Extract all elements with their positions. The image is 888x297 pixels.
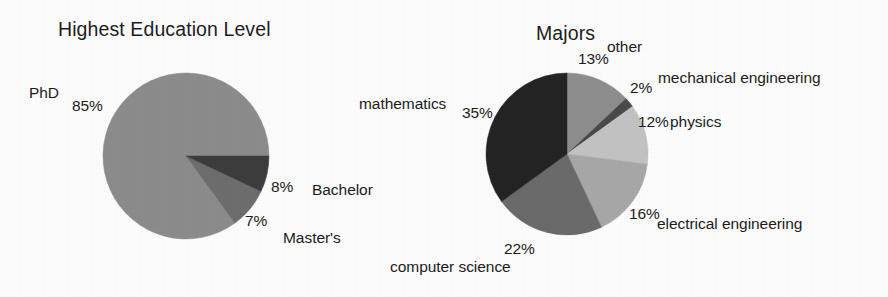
slice-percent-electrical-engineering: 16% (629, 205, 660, 223)
slice-label-computer-science: computer science (390, 258, 511, 276)
slice-percent-physics: 12% (638, 113, 669, 131)
slice-label-mathematics: mathematics (359, 95, 446, 113)
slice-label-physics: physics (670, 113, 721, 131)
slice-label-other: other (607, 38, 642, 56)
chart-title-majors: Majors (536, 22, 595, 45)
chart-majors: Majors other 13% mechanical engineering … (0, 0, 888, 297)
pie-chart-figure: Highest Education Level PhD 85% Bachelor… (0, 0, 888, 297)
pie-majors (0, 0, 888, 297)
slice-percent-computer-science: 22% (504, 240, 535, 258)
slice-label-electrical-engineering: electrical engineering (657, 215, 802, 233)
slice-percent-other: 13% (578, 50, 609, 68)
slice-percent-mechanical-engineering: 2% (630, 79, 652, 97)
slice-label-mechanical-engineering: mechanical engineering (658, 69, 821, 87)
slice-percent-mathematics: 35% (462, 104, 493, 122)
